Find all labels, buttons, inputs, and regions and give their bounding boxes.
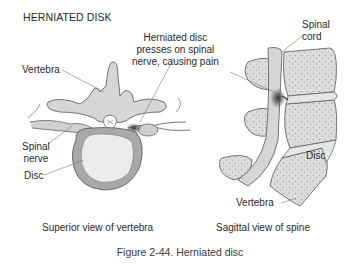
spinal-cord-line-1: Spinal (302, 19, 330, 31)
caption-superior-view: Superior view of vertebra (42, 222, 153, 234)
spinal-nerve-line-1: Spinal (22, 141, 50, 153)
herniation-callout: Herniated disc presses on spinal nerve, … (132, 32, 219, 68)
callout-line-1: Herniated disc (132, 32, 219, 44)
spinal-nerve-line-2: nerve (22, 153, 50, 165)
vertebra-label-right: Vertebra (236, 197, 274, 209)
spinal-cord-line-2: cord (302, 31, 330, 43)
callout-line-2: presses on spinal (132, 44, 219, 56)
spinal-nerve-label: Spinal nerve (22, 141, 50, 165)
sagittal-view-spine (219, 48, 337, 207)
diagram-title: HERNIATED DISK (23, 11, 112, 23)
figure-caption: Figure 2-44. Herniated disc (0, 246, 360, 258)
callout-line-3: nerve, causing pain (132, 56, 219, 68)
disc-label-right: Disc (306, 150, 325, 162)
spinal-cord-label: Spinal cord (302, 19, 330, 43)
vertebra-label-left: Vertebra (22, 64, 60, 76)
caption-sagittal-view: Sagittal view of spine (216, 222, 310, 234)
disc-label-left: Disc (24, 170, 43, 182)
superior-view-vertebra (28, 62, 190, 190)
